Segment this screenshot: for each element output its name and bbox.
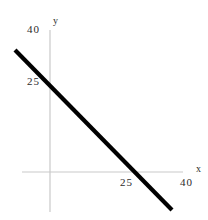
x-axis-title: x <box>196 164 201 174</box>
x-axis-tick-label-40: 40 <box>180 177 193 188</box>
y-axis-tick-label-40: 40 <box>27 24 40 35</box>
y-axis-title: y <box>53 16 58 26</box>
x-axis-tick-label-25: 25 <box>120 177 133 188</box>
chart-canvas: 40 25 25 40 y x <box>0 0 208 220</box>
data-line-series-0 <box>15 50 172 210</box>
y-axis-tick-label-25: 25 <box>27 76 40 87</box>
